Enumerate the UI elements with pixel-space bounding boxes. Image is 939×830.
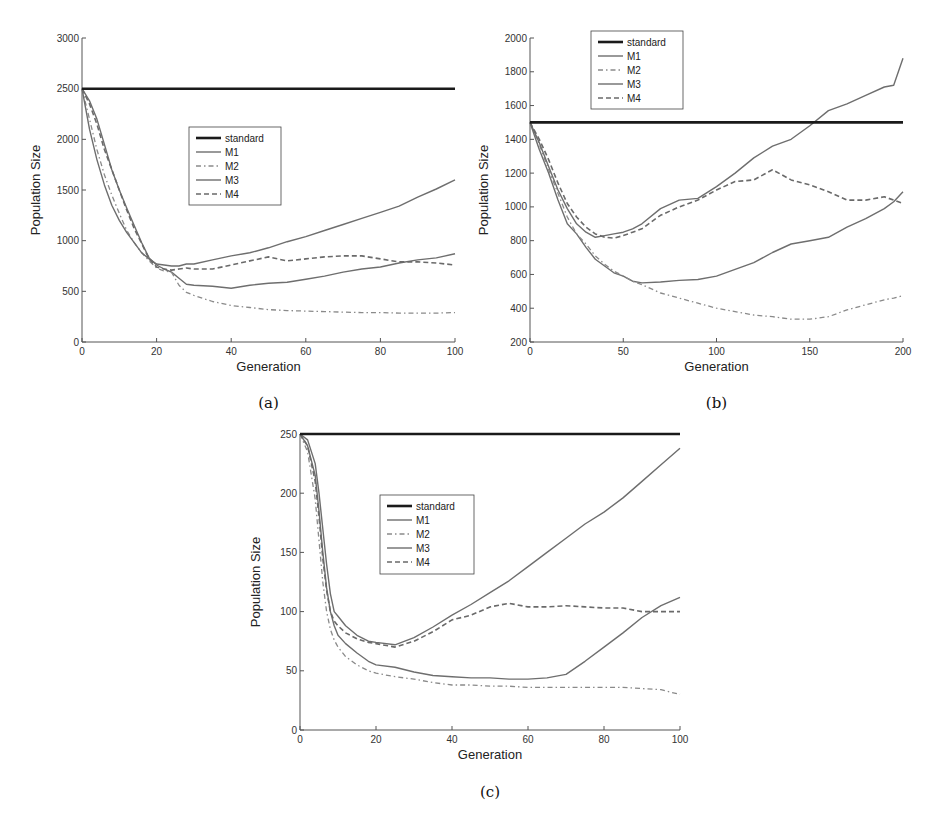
x-tick-label: 0 <box>297 734 303 745</box>
y-tick-label: 1000 <box>57 235 80 246</box>
series-line-m2 <box>300 434 680 695</box>
series-line-m1 <box>300 434 680 679</box>
y-tick-label: 2000 <box>505 33 528 44</box>
y-tick-label: 100 <box>280 606 297 617</box>
y-tick-label: 1600 <box>505 100 528 111</box>
y-tick-label: 1500 <box>57 185 80 196</box>
legend-label-m1: M1 <box>416 515 430 526</box>
x-tick-label: 60 <box>300 346 312 357</box>
x-tick-label: 150 <box>801 346 818 357</box>
x-tick-label: 80 <box>598 734 610 745</box>
figure-canvas: 020406080100050010001500200025003000Gene… <box>0 0 939 830</box>
x-tick-label: 20 <box>151 346 163 357</box>
series-line-m3 <box>300 434 680 645</box>
y-tick-label: 0 <box>73 337 79 348</box>
legend-label-m2: M2 <box>627 65 641 76</box>
legend-label-standard: standard <box>416 501 455 512</box>
y-tick-label: 200 <box>510 337 527 348</box>
y-tick-label: 0 <box>291 725 297 736</box>
x-tick-label: 40 <box>226 346 238 357</box>
legend-label-m3: M3 <box>627 79 641 90</box>
legend-label-m1: M1 <box>225 147 239 158</box>
x-tick-label: 100 <box>447 346 464 357</box>
y-tick-label: 800 <box>510 235 527 246</box>
legend-label-m2: M2 <box>225 161 239 172</box>
subfigure-caption: (c) <box>480 783 500 801</box>
legend-label-standard: standard <box>225 133 264 144</box>
x-tick-label: 0 <box>79 346 85 357</box>
y-tick-label: 3000 <box>57 33 80 44</box>
x-tick-label: 100 <box>708 346 725 357</box>
series-line-m2 <box>530 122 903 319</box>
legend: standardM1M2M3M4 <box>591 31 683 109</box>
y-tick-label: 50 <box>286 665 298 676</box>
x-tick-label: 50 <box>618 346 630 357</box>
y-tick-label: 2000 <box>57 134 80 145</box>
y-tick-label: 200 <box>280 488 297 499</box>
subfigure-caption: (a) <box>258 394 279 412</box>
y-tick-label: 1000 <box>505 201 528 212</box>
x-tick-label: 80 <box>375 346 387 357</box>
legend-label-m4: M4 <box>627 93 641 104</box>
series-line-m4 <box>300 434 680 647</box>
y-tick-label: 1200 <box>505 168 528 179</box>
legend-label-m3: M3 <box>225 175 239 186</box>
x-tick-label: 0 <box>527 346 533 357</box>
series-line-m4 <box>530 122 903 238</box>
y-tick-label: 150 <box>280 547 297 558</box>
y-axis-title: Population Size <box>248 537 263 627</box>
series-line-m1 <box>530 122 903 283</box>
legend: standardM1M2M3M4 <box>189 127 281 205</box>
y-tick-label: 500 <box>62 286 79 297</box>
y-axis-title: Population Size <box>28 145 43 235</box>
x-tick-label: 60 <box>522 734 534 745</box>
chart-b: 0501001502002004006008001000120014001600… <box>476 31 912 412</box>
y-tick-label: 600 <box>510 269 527 280</box>
x-tick-label: 200 <box>895 346 912 357</box>
x-tick-label: 40 <box>446 734 458 745</box>
legend: standardM1M2M3M4 <box>380 495 474 574</box>
y-axis-title: Population Size <box>476 145 491 235</box>
x-axis-title: Generation <box>684 359 748 374</box>
x-tick-label: 20 <box>370 734 382 745</box>
legend-label-m3: M3 <box>416 543 430 554</box>
chart-a: 020406080100050010001500200025003000Gene… <box>28 33 464 413</box>
y-tick-label: 2500 <box>57 83 80 94</box>
chart-c: 020406080100050100150200250GenerationPop… <box>248 429 689 802</box>
legend-label-m4: M4 <box>225 189 239 200</box>
series-line-m3 <box>530 58 903 237</box>
subfigure-caption: (b) <box>706 394 727 412</box>
legend-label-m4: M4 <box>416 557 430 568</box>
y-tick-label: 250 <box>280 429 297 440</box>
x-tick-label: 100 <box>672 734 689 745</box>
y-tick-label: 1800 <box>505 66 528 77</box>
x-axis-title: Generation <box>458 747 522 762</box>
x-axis-title: Generation <box>236 359 300 374</box>
legend-label-m2: M2 <box>416 529 430 540</box>
y-tick-label: 1400 <box>505 134 528 145</box>
y-tick-label: 400 <box>510 303 527 314</box>
legend-label-standard: standard <box>627 37 666 48</box>
legend-label-m1: M1 <box>627 51 641 62</box>
